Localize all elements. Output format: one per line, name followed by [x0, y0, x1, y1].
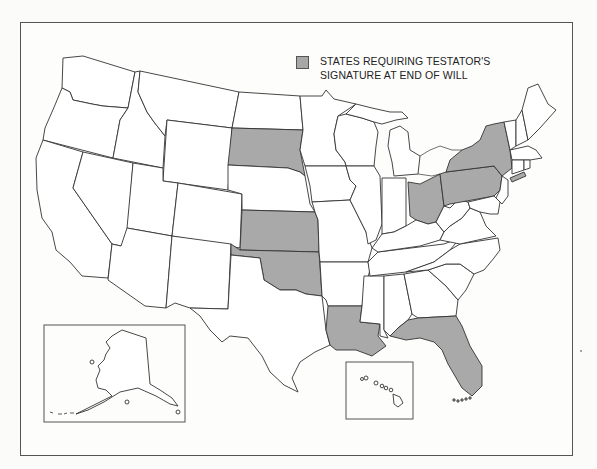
state-hawaii: [361, 376, 404, 407]
legend: STATES REQUIRING TESTATOR'S SIGNATURE AT…: [296, 54, 520, 82]
state-indiana: [382, 178, 406, 234]
hawaii-inset-frame: [346, 362, 413, 419]
state-florida: [390, 316, 482, 396]
alaska-aleutians: [50, 412, 74, 414]
florida-keys: [453, 397, 471, 402]
state-michigan-lower: [388, 126, 420, 176]
state-new-mexico: [166, 236, 231, 309]
state-new-york: [446, 122, 512, 176]
state-kansas: [240, 210, 319, 252]
legend-swatch: [296, 56, 309, 69]
alaska-island: [90, 360, 94, 364]
state-rhode-island: [524, 160, 530, 170]
alaska-island-3: [176, 410, 180, 414]
stray-mark: [580, 350, 582, 352]
alaska-island-2: [125, 400, 129, 404]
state-north-dakota: [232, 92, 303, 130]
legend-label: STATES REQUIRING TESTATOR'S SIGNATURE AT…: [320, 54, 520, 82]
state-wyoming: [163, 120, 232, 190]
state-connecticut: [512, 160, 524, 174]
state-maine: [522, 84, 556, 140]
state-massachusetts: [510, 146, 542, 160]
